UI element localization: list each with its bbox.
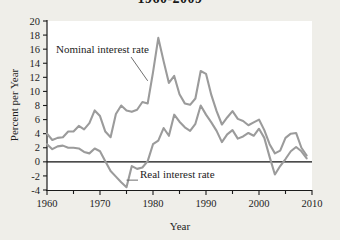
y-tick-label: 2 [35, 142, 40, 153]
y-tick-label: 0 [35, 156, 40, 167]
y-tick-label: 20 [30, 16, 41, 27]
x-tick-label: 1970 [90, 198, 111, 209]
y-tick-label: 10 [30, 86, 41, 97]
annotation-label-nominal: Nominal interest rate [56, 43, 149, 55]
y-axis-tick-labels: -4-202468101214161820 [30, 16, 41, 196]
x-tick-label: 1960 [37, 198, 58, 209]
y-tick-label: 12 [30, 72, 41, 83]
x-tick-label: 1990 [196, 198, 217, 209]
y-axis-title: Percent per Year [8, 68, 20, 141]
x-tick-label: 1980 [143, 198, 164, 209]
y-tick-label: -4 [31, 185, 40, 196]
annotation-real-interest-rate: Real interest rate [127, 168, 215, 180]
y-tick-label: 6 [35, 114, 40, 125]
x-axis-tick-labels: 196019701980199020002010 [37, 198, 323, 209]
x-tick-label: 2010 [302, 198, 323, 209]
interest-rate-figure: 1960-2009 -4-202468101214161820 19601970… [0, 0, 340, 240]
y-tick-label: 18 [30, 30, 41, 41]
x-axis-title: Year [170, 220, 191, 232]
y-tick-label: 4 [35, 128, 41, 139]
y-tick-label: 14 [30, 58, 41, 69]
y-tick-label: 8 [35, 100, 40, 111]
y-tick-label: 16 [30, 44, 41, 55]
y-tick-label: -2 [31, 171, 40, 182]
annotation-label-real: Real interest rate [140, 168, 215, 180]
interest-rate-chart: -4-202468101214161820 196019701980199020… [0, 0, 340, 240]
x-tick-label: 2000 [249, 198, 270, 209]
